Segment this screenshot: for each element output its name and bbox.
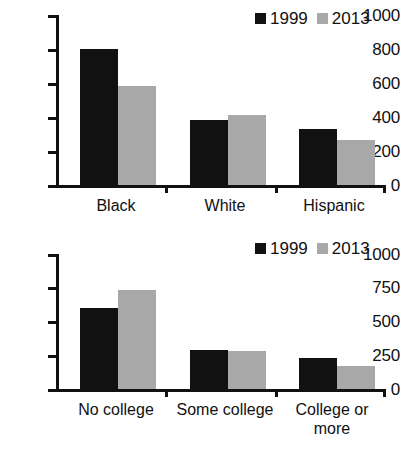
y-axis-tick: [48, 15, 56, 18]
bar-2013-2: [337, 140, 375, 185]
x-category-label-line1: College or: [296, 401, 369, 418]
bar-group-1: [190, 254, 276, 389]
x-category-label-line2: more: [314, 420, 350, 437]
bar-1999-1: [190, 120, 228, 185]
bar-group-0: [80, 15, 166, 185]
x-axis-tick: [165, 185, 168, 193]
legend-item-1999[interactable]: 1999: [255, 10, 308, 27]
y-axis-tick: [48, 287, 56, 290]
plot-area-race: 1000 800 600 400 200 0: [0, 0, 400, 227]
plot-area-education: 1000 750 500 250 0 No co: [0, 227, 400, 454]
bar-group-2: [299, 254, 385, 389]
x-axis-tick: [275, 185, 278, 193]
x-axis-line: [56, 185, 386, 188]
y-axis-tick: [48, 117, 56, 120]
chart-panel-race: 1000 800 600 400 200 0: [0, 0, 400, 227]
x-category-label-college-or-more: College or more: [282, 400, 382, 438]
legend-item-1999[interactable]: 1999: [255, 240, 308, 257]
x-category-label-some-college: Some college: [170, 400, 280, 419]
legend-swatch-2013-icon: [317, 243, 328, 254]
legend-item-2013[interactable]: 2013: [317, 240, 370, 257]
bar-2013-2: [337, 366, 375, 389]
bar-2013-0: [118, 86, 156, 185]
x-category-label-white: White: [175, 196, 275, 215]
legend-race: 1999 2013: [255, 10, 370, 27]
y-axis-tick: [48, 254, 56, 257]
legend-swatch-1999-icon: [255, 243, 266, 254]
y-axis-tick: [48, 355, 56, 358]
legend-label-1999: 1999: [270, 10, 308, 27]
bar-1999-0: [80, 308, 118, 389]
legend-label-1999: 1999: [270, 240, 308, 257]
bar-2013-1: [228, 115, 266, 185]
x-category-label-hispanic: Hispanic: [284, 196, 384, 215]
x-axis-line: [56, 389, 386, 392]
y-axis-line: [56, 254, 59, 392]
legend-label-2013: 2013: [332, 10, 370, 27]
bar-1999-0: [80, 49, 118, 185]
y-axis-tick: [48, 83, 56, 86]
y-axis-line: [56, 15, 59, 188]
legend-swatch-1999-icon: [255, 13, 266, 24]
bar-1999-2: [299, 358, 337, 389]
bar-1999-2: [299, 129, 337, 185]
bar-group-2: [299, 15, 385, 185]
legend-item-2013[interactable]: 2013: [317, 10, 370, 27]
chart-panel-education: 1000 750 500 250 0 No co: [0, 227, 400, 454]
legend-swatch-2013-icon: [317, 13, 328, 24]
y-axis-tick: [48, 151, 56, 154]
x-axis-tick: [275, 389, 278, 397]
legend-education: 1999 2013: [255, 240, 370, 257]
bar-2013-1: [228, 351, 266, 389]
y-axis-tick: [48, 185, 56, 188]
legend-label-2013: 2013: [332, 240, 370, 257]
x-axis-tick: [383, 389, 386, 397]
bar-1999-1: [190, 350, 228, 389]
x-axis-tick: [165, 389, 168, 397]
y-axis-tick: [48, 49, 56, 52]
y-axis-tick: [48, 389, 56, 392]
bar-group-1: [190, 15, 276, 185]
x-category-label-no-college: No college: [61, 400, 171, 419]
bar-2013-0: [118, 290, 156, 389]
y-axis-tick: [48, 321, 56, 324]
x-axis-tick: [383, 185, 386, 193]
bar-group-0: [80, 254, 166, 389]
x-category-label-black: Black: [66, 196, 166, 215]
